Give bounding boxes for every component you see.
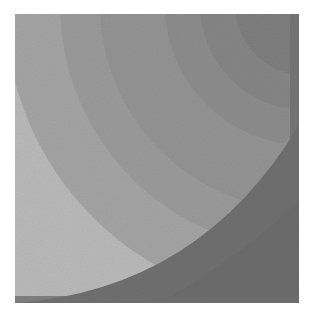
artwork-frame bbox=[0, 0, 319, 315]
abstract-arcs-image bbox=[0, 0, 319, 315]
bottom-strip bbox=[15, 296, 299, 303]
